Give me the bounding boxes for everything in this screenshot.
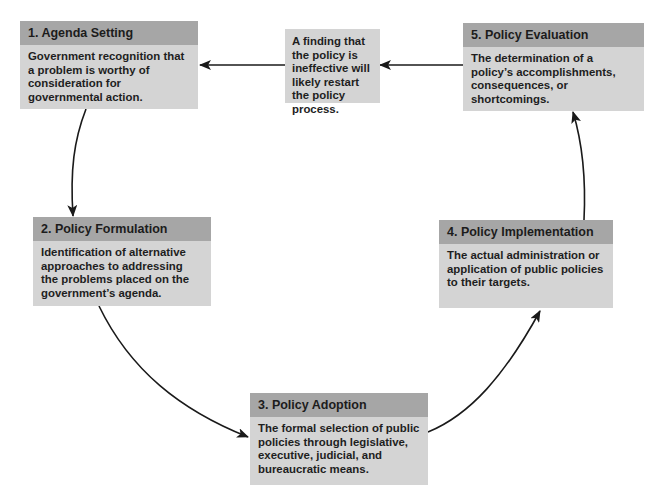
stage-header: 3. Policy Adoption <box>250 393 428 417</box>
stage-policy-formulation: 2. Policy Formulation Identification of … <box>33 217 211 306</box>
arrow-agenda-to-formulation <box>72 109 86 216</box>
arrow-formulation-to-adoption <box>99 306 248 437</box>
arrow-adoption-to-implementation <box>428 311 540 432</box>
arrow-implementation-to-evaluation <box>573 112 585 220</box>
stage-policy-implementation: 4. Policy Implementation The actual admi… <box>439 220 613 308</box>
stage-description: The determination of a policy’s accompli… <box>463 47 644 112</box>
stage-description: The formal selection of public policies … <box>250 417 428 482</box>
policy-process-diagram: 1. Agenda Setting Government recognition… <box>0 0 663 495</box>
stage-policy-adoption: 3. Policy Adoption The formal selection … <box>250 393 428 485</box>
stage-header: 5. Policy Evaluation <box>463 23 644 47</box>
stage-header: 4. Policy Implementation <box>439 220 613 244</box>
stage-description: Identification of alternative approaches… <box>33 241 211 306</box>
stage-description: The actual administration or application… <box>439 244 613 296</box>
stage-header: 2. Policy Formulation <box>33 217 211 241</box>
stage-description: Government recognition that a problem is… <box>20 45 198 110</box>
stage-policy-evaluation: 5. Policy Evaluation The determination o… <box>463 23 644 111</box>
feedback-note: A finding that the policy is ineffective… <box>285 29 380 103</box>
stage-header: 1. Agenda Setting <box>20 21 198 45</box>
stage-agenda-setting: 1. Agenda Setting Government recognition… <box>20 21 198 109</box>
